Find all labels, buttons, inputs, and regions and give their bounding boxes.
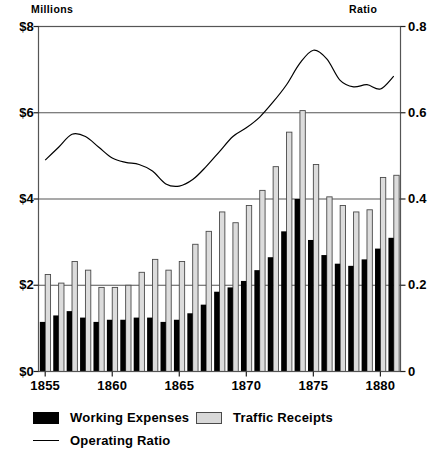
y-tick-label: $8	[0, 19, 34, 34]
bar-working-expenses	[214, 292, 219, 372]
left-axis-unit-label: Millions	[31, 3, 73, 15]
bar-traffic-receipts	[85, 270, 90, 371]
y2-tick-label: 0	[408, 364, 415, 379]
bar-working-expenses	[161, 322, 166, 372]
bar-working-expenses	[375, 249, 380, 372]
bar-working-expenses	[268, 257, 273, 371]
bar-traffic-receipts	[394, 175, 399, 371]
bar-traffic-receipts	[313, 165, 318, 372]
bar-traffic-receipts	[354, 212, 359, 372]
legend-label-traffic-receipts: Traffic Receipts	[233, 410, 333, 425]
bar-traffic-receipts	[99, 287, 104, 371]
y2-tick-label: 0.2	[408, 277, 427, 292]
bar-working-expenses	[308, 240, 313, 372]
bar-traffic-receipts	[287, 132, 292, 371]
bar-traffic-receipts	[45, 274, 50, 371]
bar-working-expenses	[388, 238, 393, 372]
bar-working-expenses	[241, 281, 246, 372]
bar-working-expenses	[120, 320, 125, 372]
bar-working-expenses	[335, 264, 340, 372]
bar-traffic-receipts	[246, 205, 251, 371]
x-tick-label: 1865	[155, 378, 203, 393]
bar-working-expenses	[254, 270, 259, 371]
bar-working-expenses	[107, 320, 112, 372]
bar-traffic-receipts	[367, 210, 372, 372]
bar-traffic-receipts	[139, 272, 144, 371]
x-tick-label: 1855	[21, 378, 69, 393]
bar-working-expenses	[201, 305, 206, 372]
bar-working-expenses	[348, 266, 353, 372]
chart-legend: Working Expenses Traffic Receipts Operat…	[0, 404, 437, 454]
y2-tick-label: 0.8	[408, 19, 427, 34]
bar-traffic-receipts	[206, 231, 211, 371]
traffic-receipts-swatch-icon	[196, 412, 222, 424]
bar-traffic-receipts	[193, 244, 198, 371]
bar-traffic-receipts	[152, 259, 157, 371]
bar-traffic-receipts	[179, 262, 184, 372]
y-tick-label: $6	[0, 105, 34, 120]
bar-traffic-receipts	[126, 285, 131, 371]
bar-working-expenses	[67, 311, 72, 371]
legend-item-traffic-receipts: Traffic Receipts	[196, 410, 333, 425]
operating-ratio-chart: Millions Ratio $0$2$4$6$8 00.20.40.60.8 …	[0, 0, 437, 454]
bar-working-expenses	[134, 318, 139, 372]
bar-traffic-receipts	[260, 190, 265, 371]
bar-working-expenses	[147, 318, 152, 372]
bar-traffic-receipts	[300, 111, 305, 372]
bar-traffic-receipts	[59, 283, 64, 371]
bar-working-expenses	[295, 199, 300, 372]
bar-working-expenses	[80, 318, 85, 372]
right-axis-unit-label: Ratio	[349, 3, 377, 15]
y-tick-label: $4	[0, 191, 34, 206]
legend-label-working-expenses: Working Expenses	[70, 410, 189, 425]
operating-ratio-swatch-icon	[33, 435, 59, 447]
y-tick-label: $2	[0, 277, 34, 292]
plot-area	[0, 0, 437, 404]
bar-working-expenses	[228, 287, 233, 371]
bar-traffic-receipts	[233, 223, 238, 372]
bar-traffic-receipts	[166, 270, 171, 371]
x-tick-label: 1860	[88, 378, 136, 393]
bar-traffic-receipts	[220, 212, 225, 372]
x-tick-label: 1875	[289, 378, 337, 393]
bar-working-expenses	[362, 259, 367, 371]
legend-item-working-expenses: Working Expenses	[33, 410, 189, 425]
bar-traffic-receipts	[380, 177, 385, 371]
x-tick-label: 1880	[356, 378, 404, 393]
y2-tick-label: 0.4	[408, 191, 427, 206]
bar-working-expenses	[187, 313, 192, 371]
x-tick-label: 1870	[222, 378, 270, 393]
legend-label-operating-ratio: Operating Ratio	[70, 433, 171, 448]
y-tick-label: $0	[0, 364, 34, 379]
bar-traffic-receipts	[72, 262, 77, 372]
y2-tick-label: 0.6	[408, 105, 427, 120]
operating-ratio-line	[45, 50, 394, 186]
bar-working-expenses	[53, 315, 58, 371]
bar-working-expenses	[174, 320, 179, 372]
working-expenses-swatch-icon	[33, 412, 59, 424]
bar-working-expenses	[281, 231, 286, 371]
bar-traffic-receipts	[327, 197, 332, 372]
bar-traffic-receipts	[340, 205, 345, 371]
bar-working-expenses	[93, 322, 98, 372]
bar-working-expenses	[40, 322, 45, 372]
bar-working-expenses	[321, 255, 326, 371]
bar-traffic-receipts	[273, 167, 278, 372]
legend-item-operating-ratio: Operating Ratio	[33, 433, 171, 448]
bar-traffic-receipts	[112, 287, 117, 371]
